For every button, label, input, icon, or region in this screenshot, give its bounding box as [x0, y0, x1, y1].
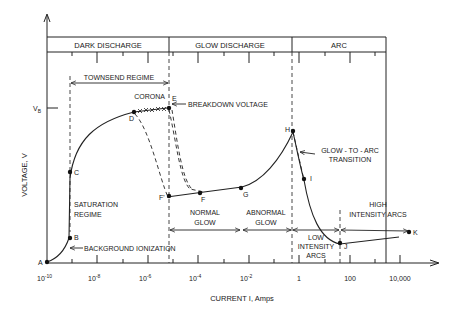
vi-curve	[47, 108, 399, 262]
point-f	[198, 191, 202, 195]
point-h-label: H	[285, 126, 290, 133]
high-intensity-arcs-label-1: HIGH	[369, 201, 387, 208]
point-d	[132, 110, 136, 114]
low-intensity-arcs-label-3: ARCS	[306, 252, 326, 259]
svg-text:100: 100	[344, 275, 356, 282]
point-k	[407, 230, 411, 234]
background-ionization-label: BACKGROUND IONIZATION	[84, 245, 176, 252]
abnormal-glow-label-2: GLOW	[255, 219, 277, 226]
point-f-prime-label: F'	[159, 194, 165, 201]
point-j	[338, 241, 342, 245]
point-f-label: F	[201, 196, 205, 203]
data-points	[45, 106, 411, 264]
svg-text:10-8: 10-8	[88, 273, 100, 282]
high-intensity-arcs-label-2: INTENSITY ARCS	[349, 211, 407, 218]
y-axis-title: VOLTAGE, V	[20, 153, 29, 196]
point-e	[167, 106, 171, 110]
svg-text:10-2: 10-2	[240, 273, 252, 282]
point-a-label: A	[38, 259, 43, 266]
glow-to-arc-arrow	[300, 152, 315, 154]
normal-glow-label-2: GLOW	[194, 219, 216, 226]
vb-label: VB	[33, 105, 42, 114]
glow-to-arc-label-1: GLOW - TO - ARC	[321, 147, 379, 154]
x-tick-labels: 10-10 10-8 10-6 10-4 10-2 1 100 10,000	[37, 273, 411, 282]
glow-to-arc-label-2: TRANSITION	[329, 156, 371, 163]
abnormal-glow-label-1: ABNORMAL	[246, 209, 285, 216]
point-e-label: E	[172, 95, 177, 102]
corona-crosses	[138, 107, 166, 113]
region-glow-discharge-label: GLOW DISCHARGE	[195, 41, 265, 50]
svg-text:10-6: 10-6	[139, 273, 151, 282]
point-h	[291, 129, 295, 133]
svg-text:10,000: 10,000	[389, 275, 411, 282]
point-k-label: K	[413, 229, 418, 236]
point-a	[45, 260, 49, 264]
svg-text:1: 1	[297, 275, 301, 282]
svg-text:10-4: 10-4	[189, 273, 201, 282]
point-d-label: D	[129, 115, 134, 122]
saturation-regime-label-1: SATURATION	[74, 201, 118, 208]
transition-curves	[135, 110, 304, 197]
region-arc-label: ARC	[331, 41, 347, 50]
normal-glow-label-1: NORMAL	[190, 209, 220, 216]
point-i-label: I	[310, 175, 312, 182]
point-c	[68, 170, 72, 174]
point-j-label: J	[344, 243, 348, 250]
low-intensity-arcs-label-2: INTENSITY	[298, 243, 335, 250]
breakdown-voltage-label: BREAKDOWN VOLTAGE	[188, 101, 268, 108]
townsend-regime-label: TOWNSEND REGIME	[84, 74, 155, 81]
gas-discharge-vi-diagram: DARK DISCHARGE GLOW DISCHARGE ARC 10-10 …	[0, 0, 450, 312]
point-b-label: B	[74, 234, 79, 241]
high-intensity-arc-arrow	[341, 230, 408, 231]
x-ticks	[72, 255, 400, 263]
point-f-prime	[167, 194, 171, 198]
point-g	[239, 186, 243, 190]
corona-label: CORONA	[134, 93, 165, 100]
x-axis-title: CURRENT I, Amps	[210, 294, 274, 303]
point-i	[302, 177, 306, 181]
region-dark-discharge-label: DARK DISCHARGE	[74, 41, 142, 50]
point-c-label: C	[74, 169, 79, 176]
point-b	[68, 236, 72, 240]
point-g-label: G	[243, 191, 248, 198]
low-intensity-arcs-label-1: LOW	[308, 234, 324, 241]
regime-boundaries	[70, 52, 340, 263]
saturation-regime-label-2: REGIME	[74, 211, 102, 218]
svg-text:10-10: 10-10	[37, 273, 52, 282]
